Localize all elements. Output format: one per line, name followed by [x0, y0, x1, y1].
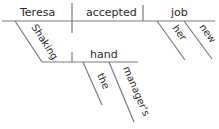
- word-participle: Shaking: [29, 22, 60, 62]
- word-object-modifier-new: new: [197, 22, 218, 45]
- word-object: job: [170, 6, 188, 19]
- word-subject: Teresa: [19, 6, 55, 19]
- word-verb: accepted: [86, 6, 137, 19]
- word-modifier-the: the: [95, 71, 112, 90]
- word-object-modifier-her: her: [170, 23, 189, 44]
- word-modifier-managers: manager's: [121, 64, 152, 117]
- word-participle-object: hand: [90, 48, 118, 61]
- sentence-diagram: Teresa accepted job her new Shaking hand…: [0, 0, 219, 129]
